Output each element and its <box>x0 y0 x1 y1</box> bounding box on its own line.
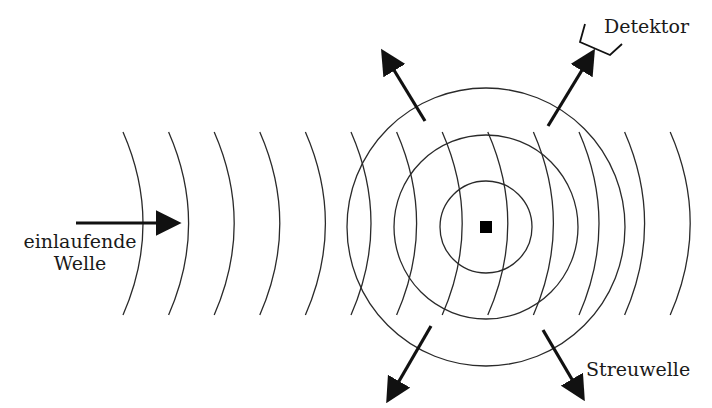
arrow-scatter-lower-right <box>543 330 580 393</box>
arrow-scatter-upper-left <box>386 57 425 121</box>
wavefront-arc <box>579 132 599 315</box>
diagram-graphics <box>0 0 712 408</box>
scattered-wave-label: Streuwelle <box>586 358 690 380</box>
wavefront-arc <box>214 132 234 315</box>
wavefront-arc <box>670 132 690 315</box>
detector-label: Detektor <box>604 15 689 37</box>
incoming-wave-label-line2: Welle <box>10 252 150 274</box>
scattering-diagram: Detektor einlaufende Welle Streuwelle <box>0 0 712 408</box>
wavefront-arc <box>305 132 325 315</box>
incoming-wave-label-line1: einlaufende <box>10 230 150 252</box>
scatterer-center <box>480 221 492 233</box>
wavefront-arc <box>625 132 645 315</box>
arrow-scatter-lower-left <box>391 326 431 395</box>
wavefront-arc <box>260 132 280 315</box>
direction-arrows <box>76 57 590 395</box>
wavefront-arc <box>397 132 417 315</box>
wavefront-arc <box>533 132 553 315</box>
wavefront-arc <box>442 132 462 315</box>
incoming-wave-label: einlaufende Welle <box>10 230 150 274</box>
incoming-wavefronts <box>123 132 690 315</box>
